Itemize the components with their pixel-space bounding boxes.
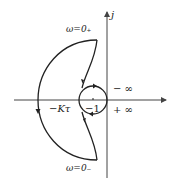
pos-infinity-label: + ∞: [113, 105, 133, 115]
omega-zero-minus-label: ω=0₋: [66, 164, 91, 173]
neg-infinity-label: − ∞: [113, 84, 133, 94]
omega-zero-plus-label: ω=0₊: [66, 25, 91, 34]
neg-one-label: −1: [85, 104, 100, 114]
inner-upper-branch: [82, 40, 97, 88]
arrow-circle-top-icon: [93, 84, 97, 89]
neg-k-tau-label: −Kτ: [49, 104, 70, 114]
nyquist-diagram: j ω=0₊ ω=0₋ − ∞ + ∞ −Kτ −1: [0, 0, 176, 189]
imag-axis-label: j: [111, 10, 114, 20]
